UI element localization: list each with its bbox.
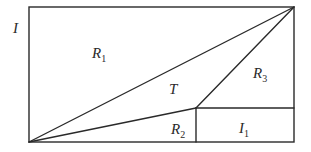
label-outer-i: I bbox=[12, 20, 19, 36]
label-i1: I1 bbox=[238, 120, 249, 139]
label-r3: R3 bbox=[252, 65, 267, 84]
region-diagram: I R1 T R3 R2 I1 bbox=[0, 0, 311, 152]
label-r1: R1 bbox=[91, 45, 106, 64]
label-r2: R2 bbox=[170, 121, 185, 140]
inner-diagonal bbox=[196, 7, 294, 108]
label-t: T bbox=[169, 81, 179, 97]
